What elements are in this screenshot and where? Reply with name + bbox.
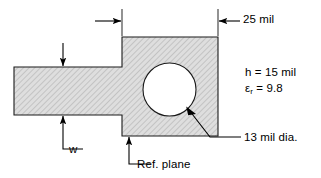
- label-pad-width: 25 mil: [243, 13, 274, 26]
- epsilon-value: = 9.8: [253, 82, 283, 94]
- label-hole-diameter: 13 mil dia.: [244, 131, 298, 144]
- label-substrate-height: h = 15 mil: [245, 66, 296, 79]
- label-trace-width: w: [69, 143, 77, 156]
- label-dielectric-constant: εr = 9.8: [245, 82, 283, 96]
- technical-drawing-figure: 25 mil h = 15 mil εr = 9.8 13 mil dia. w…: [0, 0, 321, 178]
- label-reference-plane: Ref. plane: [137, 158, 190, 171]
- epsilon-subscript: r: [250, 87, 253, 96]
